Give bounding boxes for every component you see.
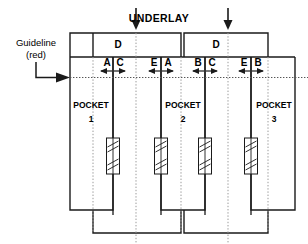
pocket-1-number: 1 [89, 114, 94, 124]
guideline-leader [36, 62, 70, 83]
fastener-slot-3 [199, 138, 212, 174]
dim-pair-4-right-label: B [254, 57, 261, 68]
underlay-arrow-right [224, 8, 233, 30]
fastener-slot-4 [245, 138, 258, 174]
pocket-2-number: 2 [181, 114, 186, 124]
dim-pair-1-right-label: C [116, 57, 123, 68]
fastener-slot-1 [107, 138, 120, 174]
underlay-panel-left [70, 33, 181, 57]
underlay-panel-right-label: D [212, 39, 219, 50]
dim-pair-2-right-label: A [164, 57, 171, 68]
pocket-3-number: 3 [272, 114, 277, 124]
pocket-seam-lines [113, 57, 251, 215]
pocket-underlay-diagram: UNDERLAY Guideline (red) D D A C E A B C… [0, 0, 308, 244]
underlay-label: UNDERLAY [129, 12, 190, 24]
pocket-1-label: POCKET [73, 100, 109, 110]
pocket-2-label: POCKET [165, 100, 201, 110]
pocket-band-outline [70, 57, 295, 233]
dim-pair-1-left-label: A [103, 57, 110, 68]
dim-pair-3-left-label: B [194, 57, 201, 68]
dim-pair-2-left-label: E [151, 57, 158, 68]
underlay-panel-left-label: D [114, 39, 121, 50]
dim-pair-3-right-label: C [208, 57, 215, 68]
underlay-panel-right [184, 33, 268, 57]
guideline-label-line1: Guideline [16, 37, 56, 48]
pocket-3-label: POCKET [256, 100, 292, 110]
guideline-label-line2: (red) [26, 49, 46, 60]
diagram-canvas: UNDERLAY Guideline (red) D D A C E A B C… [0, 0, 308, 244]
dim-pair-4-left-label: E [241, 57, 248, 68]
fastener-slot-2 [155, 138, 168, 174]
